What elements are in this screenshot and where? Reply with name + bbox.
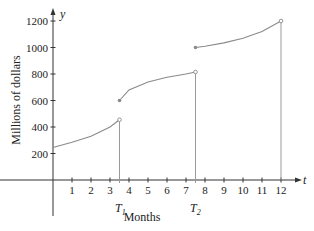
closed-point bbox=[118, 99, 122, 103]
y-axis-label: Millions of dollars bbox=[9, 55, 23, 145]
x-axis-arrow-icon bbox=[295, 178, 302, 183]
open-point bbox=[279, 19, 283, 23]
x-tick-label: 12 bbox=[276, 184, 287, 196]
x-tick-label: 1 bbox=[69, 184, 75, 196]
x-tick-label: 5 bbox=[145, 184, 151, 196]
x-tick-label: 9 bbox=[221, 184, 227, 196]
y-tick-label: 200 bbox=[32, 148, 49, 160]
y-tick-label: 600 bbox=[32, 95, 49, 107]
x-tick-label: 2 bbox=[88, 184, 94, 196]
closed-point bbox=[194, 46, 198, 50]
y-tick-label: 1000 bbox=[26, 42, 49, 54]
curve-segment-1 bbox=[53, 120, 120, 148]
t2-annotation: T2 bbox=[190, 201, 201, 217]
curves bbox=[53, 21, 281, 148]
curve-segment-3 bbox=[196, 21, 282, 48]
y-tick-label: 1200 bbox=[26, 15, 49, 27]
x-tick-label: 8 bbox=[202, 184, 208, 196]
x-tick-label: 4 bbox=[126, 184, 132, 196]
endpoints bbox=[118, 19, 283, 121]
x-axis-label: Months bbox=[124, 210, 161, 224]
x-tick-label: 6 bbox=[164, 184, 170, 196]
curve-segment-2 bbox=[120, 72, 196, 101]
y-axis-arrow-icon bbox=[51, 8, 56, 15]
x-tick-label: 10 bbox=[238, 184, 250, 196]
open-point bbox=[118, 118, 122, 122]
chart: 12345678910111220040060080010001200 y t … bbox=[0, 0, 314, 231]
x-tick-label: 7 bbox=[183, 184, 189, 196]
y-axis-var: y bbox=[59, 7, 66, 21]
t-axis-var: t bbox=[303, 173, 307, 187]
x-tick-label: 11 bbox=[257, 184, 268, 196]
vertical-lines bbox=[120, 21, 282, 183]
x-tick-label: 3 bbox=[107, 184, 113, 196]
ticks: 12345678910111220040060080010001200 bbox=[26, 15, 287, 196]
y-tick-label: 800 bbox=[32, 68, 49, 80]
y-tick-label: 400 bbox=[32, 121, 49, 133]
open-point bbox=[194, 70, 198, 74]
t1-annotation: T1 bbox=[115, 201, 126, 217]
